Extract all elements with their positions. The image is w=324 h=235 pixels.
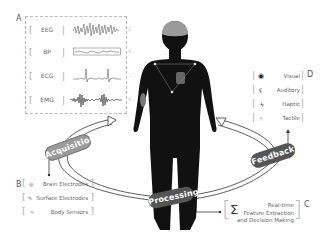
processing-line-2: Feature Extraction [237,210,294,218]
sensor-row-brain-electrodes: [ ◎ Brain Electrodes ] [22,178,94,191]
brain-icon: ☾ [128,25,133,32]
bracket: ] [90,191,94,204]
bracket: | [252,69,255,82]
signal-row-eeg: [ EEG | [26,21,126,39]
bracket: [ [29,91,33,109]
bracket: [ [29,21,33,39]
hand-icon: ☝ [259,112,263,125]
bracket: | [62,91,65,109]
brain-icon [162,21,188,36]
panel-c-label: C [304,200,310,209]
feedback-label: Auditory [277,84,300,97]
eeg-waveform [73,21,119,39]
signals-panel: [ EEG | [ BP | [ ECG | [ EMG | [25,16,127,114]
sensor-row-surface-electrodes: [ ✎ Surface Electrodes ] [22,192,94,205]
feedback-row-auditory: | ʕ Auditory | [252,84,304,97]
signal-name: EMG [34,91,60,109]
feedback-label: Tactile [283,112,300,125]
feedback-row-tactile: | ☝ Tactile | [252,112,304,125]
feedback-label: Visual [284,70,300,83]
brain-electrode-icon: ◎ [29,178,33,191]
bracket: ] [90,177,94,190]
bracket: ] [90,205,94,218]
feedback-row-visual: | ◉ Visual | [252,70,304,83]
processing-line-1: Real-time [237,202,294,210]
processing-line-3: and Decision Making [237,217,294,225]
bracket: [ [29,43,33,61]
bracket: | [301,69,304,82]
bracket: | [62,43,65,61]
panel-b-label: B [16,180,22,189]
surface-electrode-icon: ✎ [28,192,32,205]
signal-name: ECG [34,67,60,85]
panel-d-label: D [307,70,313,79]
sensor-row-body-sensors: [ ≈ Body Sensors ] [22,206,94,219]
sensor-label: Surface Electrodes [36,192,88,205]
bracket: | [252,83,255,96]
bracket: | [252,97,255,110]
bracket: | [62,21,65,39]
bracket: | [62,67,65,85]
signal-name: BP [34,43,60,61]
signal-row-emg: [ EMG | [26,91,126,109]
emg-sensor [140,93,146,107]
processing-description: Real-time Feature Extraction and Decisio… [237,202,294,225]
bp-waveform [73,43,121,61]
bracket: [ [22,205,26,218]
feedback-label: Haptic [282,98,300,111]
eye-icon: ◉ [258,70,264,83]
vibration-icon: ϟ [260,98,264,111]
bracket: [ [22,191,26,204]
bracket: | [301,97,304,110]
body-sensor-icon: ≈ [30,206,34,219]
emg-waveform [70,91,122,109]
ear-icon: ʕ [259,84,262,97]
processing-detail: [ Σ Real-time Feature Extraction and Dec… [222,198,302,228]
feedback-row-haptic: | ϟ Haptic | [252,98,304,111]
bracket: | [252,111,255,124]
bracket: | [301,83,304,96]
pressure-icon: ☾ [128,47,133,54]
sensor-label: Body Sensors [51,206,88,219]
bracket: [ [22,177,26,190]
heart-icon: ♡ [128,71,133,78]
muscle-icon: ☾ [128,95,133,102]
bracket: | [301,111,304,124]
signal-name: EEG [34,21,60,39]
ecg-waveform [73,67,121,85]
signal-row-ecg: [ ECG | [26,67,126,85]
sensor-label: Brain Electrodes [43,178,88,191]
signal-row-bp: [ BP | [26,43,126,61]
bracket: ] [293,196,302,221]
panel-a-label: A [16,14,21,23]
bracket: [ [29,67,33,85]
